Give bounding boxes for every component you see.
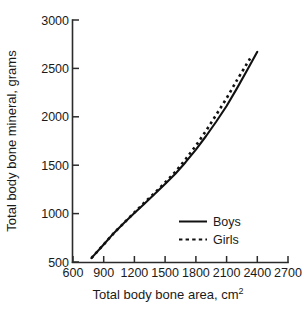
y-tick-label-1000: 1000 [41,207,69,221]
x-tick-label-2100: 2100 [213,266,241,280]
y-tick-label-2000: 2000 [41,110,69,124]
y-tick-label-3000: 3000 [41,14,69,28]
x-tick-label-1800: 1800 [182,266,210,280]
y-tick-label-1500: 1500 [41,159,69,173]
legend-label-boys: Boys [213,215,241,229]
x-axis-title-text: Total body bone area, cm [93,287,239,302]
x-axis-title-superscript: 2 [238,286,243,296]
x-axis-title: Total body bone area, cm2 [93,286,244,302]
x-tick-label-900: 900 [93,266,114,280]
chart-figure: 3000 2500 2000 1500 1000 500 600 900 120… [0,0,304,315]
x-axis-tick-labels: 600 900 1200 1500 1800 2100 2400 2700 [63,266,302,280]
x-tick-label-1500: 1500 [151,266,179,280]
x-tick-label-2400: 2400 [243,266,271,280]
x-tick-label-600: 600 [63,266,84,280]
y-axis-title: Total body bone mineral, grams [4,50,19,232]
x-tick-label-2700: 2700 [274,266,302,280]
y-tick-label-2500: 2500 [41,62,69,76]
line-chart-svg: 3000 2500 2000 1500 1000 500 600 900 120… [0,0,304,315]
x-tick-label-1200: 1200 [120,266,148,280]
legend-label-girls: Girls [213,233,239,247]
